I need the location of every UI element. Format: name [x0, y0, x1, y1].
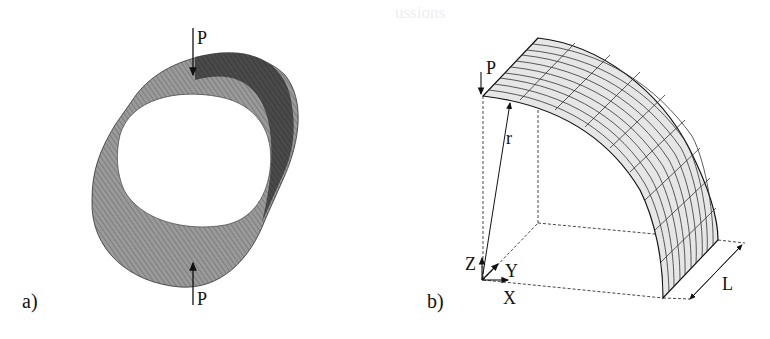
panel-a-cylinder: P P a) [22, 28, 298, 313]
radius-label: r [506, 128, 512, 148]
length-label: L [722, 274, 733, 294]
z-axis-label: Z [465, 254, 476, 274]
panel-label-b: b) [427, 290, 444, 313]
y-axis-label: Y [505, 261, 518, 281]
cylinder-opening [117, 94, 270, 227]
load-label-top: P [197, 28, 207, 48]
x-axis-label: X [503, 288, 516, 308]
figure-canvas: P P a) [0, 0, 770, 339]
load-label: P [486, 58, 496, 78]
panel-label-a: a) [22, 290, 38, 313]
panel-b-quarter-shell: P r Z Y X L b) [427, 38, 745, 313]
load-label-bottom: P [197, 289, 207, 309]
